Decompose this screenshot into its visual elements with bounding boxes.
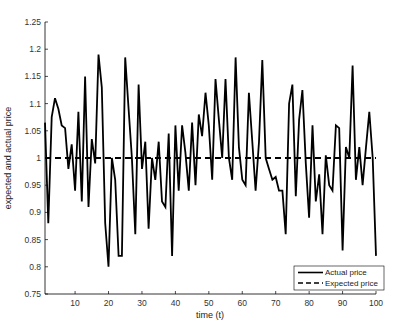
y-tick-label: 1.2 [29, 44, 41, 54]
x-tick-label: 30 [137, 298, 147, 308]
x-tick-label: 20 [104, 298, 114, 308]
y-tick-label: 0.85 [24, 235, 41, 245]
y-tick-label: 0.95 [24, 180, 41, 190]
actual-price-line [45, 55, 376, 267]
y-tick-label: 1.05 [24, 126, 41, 136]
y-axis-ticks: 0.750.80.850.90.9511.051.11.151.21.25 [24, 17, 48, 299]
y-tick-label: 1.25 [24, 17, 41, 27]
x-axis-ticks: 102030405060708090100 [70, 291, 383, 308]
x-tick-label: 90 [338, 298, 348, 308]
y-tick-label: 1 [36, 153, 41, 163]
y-tick-label: 1.15 [24, 71, 41, 81]
x-tick-label: 100 [369, 298, 383, 308]
x-tick-label: 60 [238, 298, 248, 308]
x-tick-label: 70 [271, 298, 281, 308]
x-tick-label: 10 [70, 298, 80, 308]
x-axis-title: time (t) [196, 310, 224, 320]
price-line-chart: 0.750.80.850.90.9511.051.11.151.21.25 10… [0, 0, 400, 334]
y-tick-label: 1.1 [29, 99, 41, 109]
legend-label-actual: Actual price [325, 268, 367, 277]
legend: Actual price Expected price [294, 266, 384, 290]
legend-label-expected: Expected price [325, 279, 378, 288]
y-tick-label: 0.75 [24, 289, 41, 299]
x-tick-label: 50 [204, 298, 214, 308]
x-tick-label: 80 [304, 298, 314, 308]
y-axis-title: expected and actual price [3, 107, 13, 210]
x-tick-label: 40 [171, 298, 181, 308]
y-tick-label: 0.9 [29, 207, 41, 217]
y-tick-label: 0.8 [29, 262, 41, 272]
